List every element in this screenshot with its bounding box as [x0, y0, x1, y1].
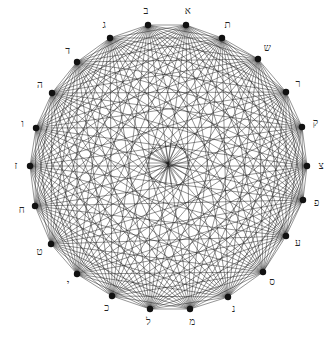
edge [51, 59, 258, 244]
edge [77, 38, 222, 62]
graph-node [183, 22, 189, 28]
graph-node [48, 241, 54, 247]
node-label: ד [65, 45, 70, 56]
node-label: י [67, 278, 70, 289]
edge [35, 206, 263, 272]
graph-node [32, 203, 38, 209]
node-label: ע [295, 237, 301, 248]
graph-node [49, 90, 55, 96]
edge [77, 59, 258, 62]
node-label: א [185, 5, 191, 16]
edge [263, 236, 286, 272]
edge [52, 93, 263, 272]
graph-node [300, 197, 306, 203]
edge [112, 296, 228, 297]
node-label: ק [313, 117, 318, 128]
complete-graph-diagram: אבגדהוזחטיכלמנסעפצקרשת [0, 0, 336, 341]
edge [52, 59, 258, 93]
node-label: נ [232, 303, 235, 314]
edge [36, 128, 286, 236]
edge [190, 297, 228, 309]
graph-node [283, 233, 289, 239]
node-label: ל [145, 316, 151, 327]
edge [110, 38, 190, 309]
node-label: ג [102, 19, 105, 30]
edge [51, 38, 222, 244]
graph-node [260, 269, 266, 275]
node-label: ח [19, 204, 25, 215]
graph-node [225, 294, 231, 300]
graph-node [74, 59, 80, 65]
node-label: צ [318, 160, 323, 171]
node-label: כ [104, 302, 109, 313]
graph-node [107, 35, 113, 41]
node-label: ט [36, 246, 42, 257]
edge [30, 38, 110, 166]
node-label: מ [189, 316, 195, 327]
edge [52, 25, 148, 93]
graph-node [147, 306, 153, 312]
edge [148, 25, 258, 59]
node-label: פ [314, 197, 319, 208]
node-label: ש [264, 42, 271, 53]
graph-node [299, 124, 305, 130]
edge [51, 25, 186, 244]
node-label: ר [296, 78, 301, 89]
graph-node [255, 56, 261, 62]
graph-node [283, 89, 289, 95]
graph-node [187, 306, 193, 312]
edge [77, 274, 190, 309]
graph-node [33, 125, 39, 131]
node-label: ה [37, 79, 43, 90]
node-label: ז [15, 160, 18, 171]
edge [112, 236, 286, 296]
edge [150, 272, 263, 309]
node-label: ת [225, 19, 231, 30]
edge [51, 244, 77, 274]
graph-node [145, 22, 151, 28]
graph-node [219, 35, 225, 41]
graph-node [109, 293, 115, 299]
edge [51, 244, 263, 272]
node-label: ס [269, 276, 275, 287]
node-label: ב [144, 5, 149, 16]
node-label: ו [21, 118, 24, 129]
graph-node [304, 163, 310, 169]
graph-node [27, 163, 33, 169]
edge [150, 92, 286, 309]
graph-node [74, 271, 80, 277]
